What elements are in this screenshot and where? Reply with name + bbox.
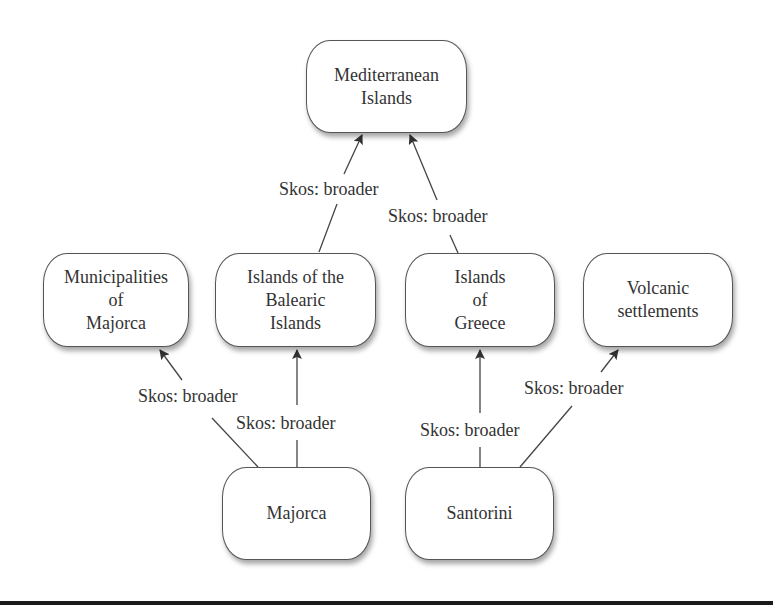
node-islands-of-the-balearic-islands: Islands of the Balearic Islands <box>215 253 376 347</box>
node-label: Santorini <box>447 502 513 525</box>
node-mediterranean-islands: Mediterranean Islands <box>306 40 467 133</box>
edge-majorca-to-municipalities <box>160 350 258 467</box>
node-label: Municipalities of Majorca <box>64 266 168 335</box>
node-label: Islands of Greece <box>455 266 506 335</box>
node-santorini: Santorini <box>405 467 554 560</box>
node-volcanic-settlements: Volcanic settlements <box>583 253 733 347</box>
node-label: Mediterranean Islands <box>334 64 439 110</box>
edge-label-santorini-to-volcanic: Skos: broader <box>524 378 623 398</box>
node-label: Islands of the Balearic Islands <box>247 266 344 335</box>
node-label: Volcanic settlements <box>618 277 699 323</box>
edge-santorini-to-volcanic <box>520 350 618 467</box>
node-majorca: Majorca <box>222 467 371 560</box>
node-municipalities-of-majorca: Municipalities of Majorca <box>43 253 189 347</box>
edge-label-majorca-to-balearic: Skos: broader <box>236 413 335 433</box>
bottom-divider <box>0 601 773 605</box>
node-label: Majorca <box>267 502 327 525</box>
node-islands-of-greece: Islands of Greece <box>405 253 555 347</box>
edge-label-balearic-to-mediterranean: Skos: broader <box>279 179 378 199</box>
edge-greece-to-mediterranean <box>410 135 458 253</box>
edge-label-santorini-to-greece: Skos: broader <box>420 420 519 440</box>
edge-label-greece-to-mediterranean: Skos: broader <box>388 206 487 226</box>
edge-label-majorca-to-municipalities: Skos: broader <box>138 386 237 406</box>
